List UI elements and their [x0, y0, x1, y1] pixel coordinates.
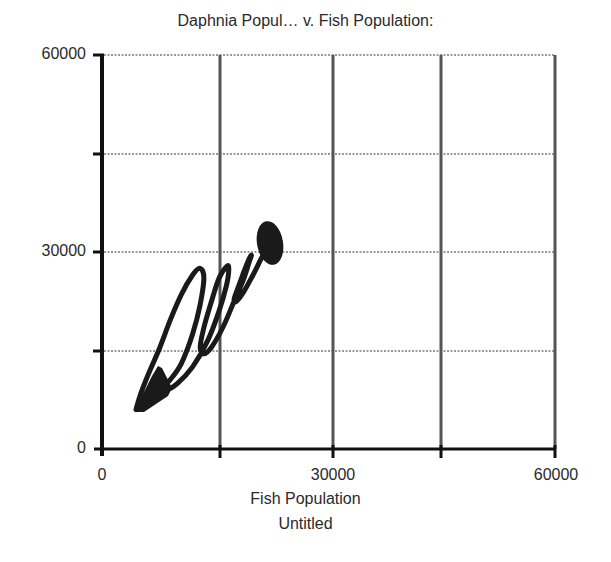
x-tick-label-0: 0: [62, 466, 142, 484]
chart-subtitle: Untitled: [0, 515, 611, 533]
y-tick-label-30000: 30000: [6, 242, 86, 260]
y-tick-label-60000: 60000: [6, 45, 86, 63]
horizontal-gridlines: [104, 55, 555, 351]
x-tick-label-30000: 30000: [293, 466, 373, 484]
x-axis-title: Fish Population: [0, 490, 611, 508]
x-tick-label-60000: 60000: [516, 466, 596, 484]
y-tick-label-0: 0: [6, 439, 86, 457]
